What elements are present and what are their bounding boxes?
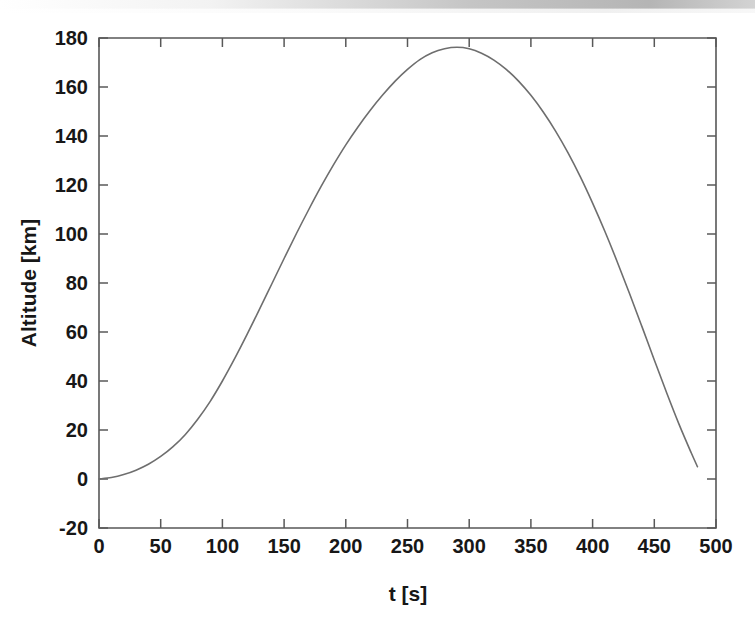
y-tick-label: 80 — [66, 272, 88, 294]
series-line-altitude — [99, 47, 697, 479]
y-tick-label: 180 — [55, 27, 88, 49]
x-tick-label: 500 — [699, 535, 732, 557]
x-tick-label: 150 — [267, 535, 300, 557]
x-tick-label: 450 — [638, 535, 671, 557]
figure-canvas: 050100150200250300350400450500 -20020406… — [0, 0, 755, 617]
x-tick-label: 100 — [206, 535, 239, 557]
chart-svg: 050100150200250300350400450500 -20020406… — [0, 0, 755, 617]
y-tick-label: 20 — [66, 419, 88, 441]
y-tick-label: 0 — [77, 468, 88, 490]
x-axis-ticks — [99, 38, 716, 528]
y-tick-label: 100 — [55, 223, 88, 245]
x-tick-label: 0 — [93, 535, 104, 557]
x-axis-tick-labels: 050100150200250300350400450500 — [93, 535, 732, 557]
y-tick-label: 40 — [66, 370, 88, 392]
y-axis-title: Altitude [km] — [17, 219, 40, 347]
y-tick-label: 60 — [66, 321, 88, 343]
y-axis-ticks — [99, 38, 716, 528]
x-tick-label: 400 — [576, 535, 609, 557]
x-tick-label: 200 — [329, 535, 362, 557]
y-tick-label: 120 — [55, 174, 88, 196]
y-axis-tick-labels: -20020406080100120140160180 — [55, 27, 88, 539]
x-tick-label: 250 — [391, 535, 424, 557]
x-tick-label: 350 — [514, 535, 547, 557]
plot-frame — [99, 38, 716, 528]
x-axis-title: t [s] — [389, 582, 428, 605]
y-tick-label: 160 — [55, 76, 88, 98]
data-series-altitude — [99, 47, 697, 479]
x-tick-label: 50 — [150, 535, 172, 557]
y-tick-label: -20 — [59, 517, 88, 539]
y-tick-label: 140 — [55, 125, 88, 147]
x-tick-label: 300 — [453, 535, 486, 557]
